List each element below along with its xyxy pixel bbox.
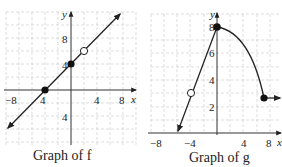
graph-f-point-filled [41,86,48,93]
graph-f-xtick: 4 [94,94,100,106]
graph-g-point-open [187,89,194,96]
graph-g-y-label: y [209,8,215,20]
graph-g: y x −8 −4 4 8 8 6 4 2 [148,8,282,149]
graph-f-xtick: −8 [5,94,17,106]
graph-f-point-filled [67,60,74,67]
graph-g-xtick: 4 [241,137,247,149]
graph-f-x-label: x [130,93,136,105]
graph-g-x-label: x [276,136,282,148]
graph-g-ytick: 6 [209,47,215,59]
graph-g-grid [151,14,281,133]
graph-f-ytick: 4 [62,111,68,123]
graph-f-ytick: 8 [62,33,68,45]
graph-g-xtick: −8 [150,137,162,149]
graph-g-xtick: 8 [266,137,272,149]
graph-f: y x −8 4 4 8 8 4 4 [4,8,136,145]
graph-f-ytick: 4 [62,59,68,71]
graph-g-ytick: 8 [209,21,215,33]
graph-g-xtick: −4 [184,137,196,149]
graph-g-caption: Graph of g [189,150,250,166]
graph-g-ytick: 4 [209,74,215,86]
graph-g-arc [217,27,264,98]
graph-f-point-open [80,47,87,54]
graph-f-xtick: 4 [40,94,46,106]
graph-f-xtick: 8 [119,94,125,106]
graph-f-y-label: y [61,8,67,20]
graph-g-ytick: 2 [209,101,215,113]
graph-f-caption: Graph of f [33,148,91,164]
graph-g-point-filled [260,94,267,101]
graphs-canvas: y x −8 4 4 8 8 4 4 [0,0,282,167]
